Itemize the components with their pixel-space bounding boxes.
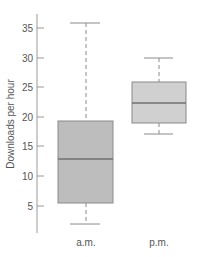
category-label-am: a.m. xyxy=(76,237,95,248)
box-am xyxy=(58,23,113,224)
tick-label-15: 15 xyxy=(22,141,34,152)
tick-label-20: 20 xyxy=(22,112,34,123)
category-label-pm: p.m. xyxy=(149,237,168,248)
y-axis-title: Downloads per hour xyxy=(5,79,16,169)
tick-label-35: 35 xyxy=(22,23,34,34)
tick-label-25: 25 xyxy=(22,82,34,93)
box-pm xyxy=(132,58,186,134)
tick-label-10: 10 xyxy=(22,171,34,182)
y-tick-labels: 5 10 15 20 25 30 35 xyxy=(22,23,34,212)
iqr-box xyxy=(58,121,113,203)
y-ticks xyxy=(37,28,44,206)
tick-label-30: 30 xyxy=(22,53,34,64)
tick-label-5: 5 xyxy=(27,201,33,212)
box-plot: 5 10 15 20 25 30 35 Downloads per hour a… xyxy=(0,0,201,257)
